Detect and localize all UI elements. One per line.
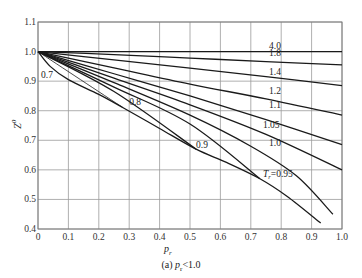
caption-prefix: (a) bbox=[161, 259, 175, 270]
x-tick-label: 0.4 bbox=[154, 232, 166, 242]
figure-caption: (a) pr<1.0 bbox=[0, 259, 362, 273]
compressibility-chart: 00.10.20.30.40.50.60.70.80.91.00.40.50.6… bbox=[0, 0, 362, 278]
x-tick-label: 0 bbox=[36, 232, 41, 242]
x-axis-label: pr bbox=[164, 243, 172, 257]
curve-tr-1-0 bbox=[38, 52, 333, 215]
curve-label: Tr=0.95 bbox=[263, 169, 293, 180]
y-tick-label: 0.5 bbox=[24, 194, 36, 204]
x-tick-label: 0.6 bbox=[214, 232, 226, 242]
curve-label: 0.8 bbox=[129, 97, 141, 107]
y-tick-label: 0.7 bbox=[24, 135, 36, 145]
curve-label: 0.9 bbox=[196, 140, 208, 150]
y-tick-label: 0.9 bbox=[24, 76, 36, 86]
x-tick-label: 0.7 bbox=[245, 232, 257, 242]
x-tick-label: 0.5 bbox=[184, 232, 196, 242]
y-tick-label: 1.0 bbox=[24, 47, 36, 57]
x-tick-label: 0.1 bbox=[62, 232, 74, 242]
y-tick-label: 0.8 bbox=[24, 106, 36, 116]
curve-label: 1.0 bbox=[269, 138, 281, 148]
y-axis-label: Z0 bbox=[10, 120, 22, 129]
x-tick-label: 0.9 bbox=[306, 232, 318, 242]
curve-label: 1.1 bbox=[269, 100, 281, 110]
x-tick-label: 0.2 bbox=[93, 232, 105, 242]
curve-label: 1.2 bbox=[269, 86, 281, 96]
curve-label: 1.05 bbox=[263, 120, 280, 130]
x-tick-label: 0.8 bbox=[275, 232, 287, 242]
axes: 00.10.20.30.40.50.60.70.80.91.00.40.50.6… bbox=[24, 17, 348, 242]
x-tick-label: 1.0 bbox=[336, 232, 348, 242]
x-tick-label: 0.3 bbox=[123, 232, 135, 242]
y-tick-label: 1.1 bbox=[24, 17, 36, 27]
curve-label: 4.0 bbox=[269, 41, 281, 51]
y-tick-label: 0.6 bbox=[24, 165, 36, 175]
caption-suffix: <1.0 bbox=[182, 259, 200, 270]
y-tick-label: 0.4 bbox=[24, 224, 36, 234]
curve-label: 1.4 bbox=[269, 67, 281, 77]
curve-label: 0.7 bbox=[41, 70, 53, 80]
